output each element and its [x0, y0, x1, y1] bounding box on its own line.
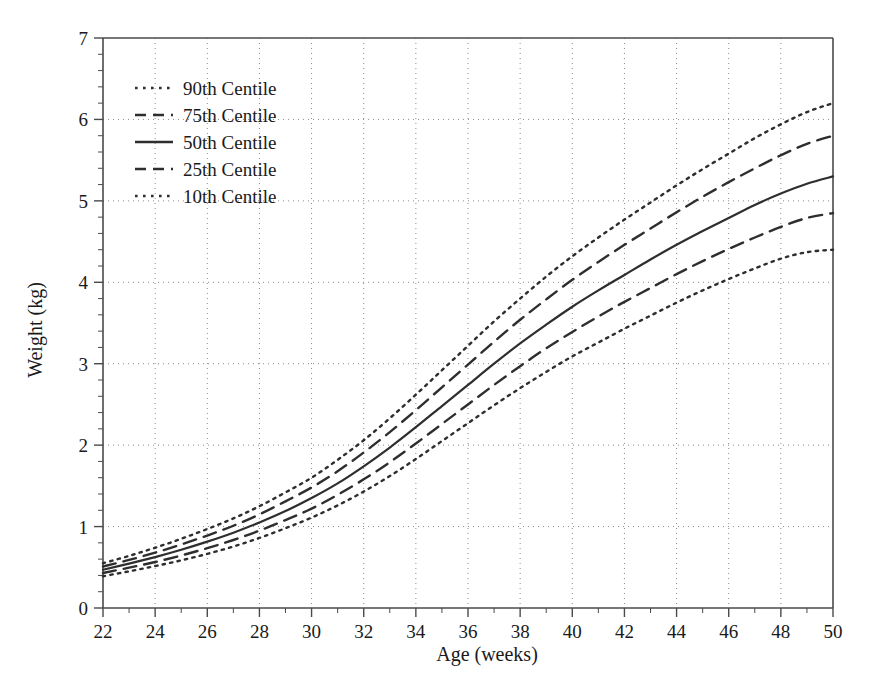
y-tick-label: 2	[79, 435, 89, 456]
y-tick-label: 0	[79, 598, 89, 619]
x-tick-label: 24	[146, 621, 166, 642]
y-tick-label: 6	[79, 109, 89, 130]
y-tick-label: 7	[79, 28, 89, 49]
x-tick-label: 26	[198, 621, 217, 642]
chart-legend: 90th Centile75th Centile50th Centile25th…	[135, 78, 276, 207]
y-axis-title: Weight (kg)	[24, 282, 47, 378]
x-axis-title: Age (weeks)	[436, 643, 538, 666]
x-tick-label: 32	[354, 621, 373, 642]
x-tick-label: 44	[667, 621, 687, 642]
legend-label-50th-centile: 50th Centile	[183, 132, 276, 153]
x-tick-label: 30	[302, 621, 321, 642]
legend-label-90th-centile: 90th Centile	[183, 78, 276, 99]
x-tick-label: 38	[511, 621, 530, 642]
x-tick-label: 22	[94, 621, 113, 642]
x-tick-label: 36	[459, 621, 478, 642]
y-tick-label: 1	[79, 517, 89, 538]
y-tick-label: 3	[79, 354, 89, 375]
x-tick-label: 28	[250, 621, 269, 642]
y-tick-label: 4	[79, 272, 89, 293]
growth-chart-figure: 01234567222426283032343638404244464850 9…	[0, 0, 880, 697]
x-tick-label: 34	[406, 621, 426, 642]
y-tick-label: 5	[79, 191, 89, 212]
x-tick-label: 48	[771, 621, 790, 642]
legend-label-25th-centile: 25th Centile	[183, 159, 276, 180]
x-tick-label: 50	[824, 621, 843, 642]
legend-label-10th-centile: 10th Centile	[183, 186, 276, 207]
x-tick-label: 42	[615, 621, 634, 642]
x-tick-label: 46	[719, 621, 738, 642]
x-tick-label: 40	[563, 621, 582, 642]
chart-canvas: 01234567222426283032343638404244464850 9…	[0, 0, 880, 697]
legend-label-75th-centile: 75th Centile	[183, 105, 276, 126]
